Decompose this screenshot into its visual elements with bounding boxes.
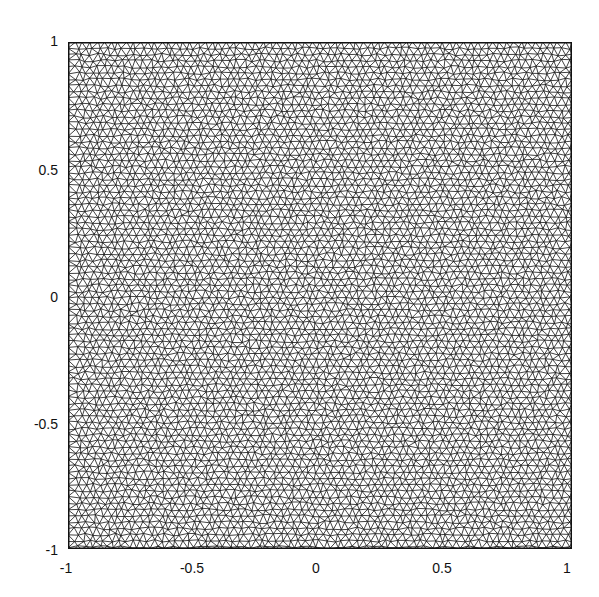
x-tick-label: 0	[291, 560, 341, 576]
x-tick-label: -0.5	[167, 560, 217, 576]
y-tick-label: 0.5	[8, 162, 58, 178]
y-tick-label: -0.5	[8, 416, 58, 432]
triangular-mesh	[68, 42, 572, 549]
y-tick-label: 1	[8, 33, 58, 49]
x-tick-label: 0.5	[417, 560, 467, 576]
mesh-edges	[68, 42, 572, 549]
x-tick-label: -1	[41, 560, 91, 576]
mesh-plot-area	[68, 42, 572, 549]
x-tick-label: 1	[542, 560, 592, 576]
y-tick-label: 0	[8, 289, 58, 305]
y-tick-label: -1	[8, 542, 58, 558]
